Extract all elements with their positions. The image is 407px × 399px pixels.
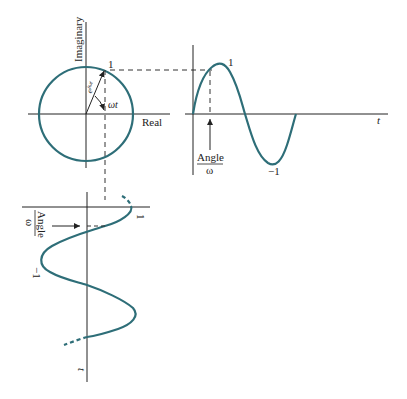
- bottom-peak-label: 1: [135, 214, 147, 220]
- phasor-projection-diagram: Imaginary Real 1 ejωt ωt 1 −1 t Angle ω …: [0, 0, 407, 399]
- phasor-diagram: Imaginary Real 1 ejωt ωt: [28, 16, 212, 200]
- unit-point-label: 1: [108, 58, 114, 70]
- bottom-curve-dashed-end: [64, 337, 87, 345]
- time-plot-right: 1 −1 t Angle ω: [185, 45, 388, 177]
- bottom-curve-dashed-start: [122, 196, 131, 206]
- right-angle-label-bottom: ω: [206, 164, 213, 176]
- bottom-angle-label-bottom: ω: [24, 219, 36, 226]
- bottom-trough-label: −1: [31, 267, 43, 279]
- real-axis-label: Real: [142, 116, 162, 128]
- right-peak-label: 1: [228, 56, 234, 68]
- angle-arc-arrow: [95, 96, 104, 110]
- bottom-angle-label-top: Angle: [36, 211, 48, 238]
- right-trough-label: −1: [268, 165, 280, 177]
- angle-omega-t-label: ωt: [108, 99, 118, 110]
- right-angle-label-top: Angle: [197, 151, 224, 163]
- time-plot-bottom: 1 −1 t Angle ω: [22, 192, 150, 382]
- right-time-axis-label: t: [377, 114, 381, 126]
- bottom-time-axis-label: t: [76, 368, 88, 372]
- imaginary-axis-label: Imaginary: [72, 16, 84, 62]
